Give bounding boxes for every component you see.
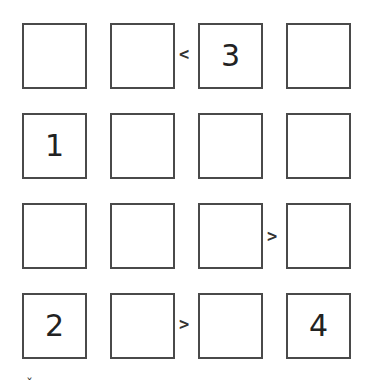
cell-r3-c1[interactable] [110, 293, 175, 359]
cell-r1-c0[interactable]: 1 [22, 113, 87, 179]
greater-than-sign: > [179, 316, 189, 333]
cell-value: 3 [221, 41, 240, 71]
cell-r0-c2[interactable]: 3 [198, 23, 263, 89]
cell-r3-c3[interactable]: 4 [286, 293, 351, 359]
cell-r3-c0[interactable]: 2 [22, 293, 87, 359]
cell-value: 4 [309, 311, 328, 341]
cell-r2-c1[interactable] [110, 203, 175, 269]
cell-r2-c0[interactable] [22, 203, 87, 269]
cell-r0-c0[interactable] [22, 23, 87, 89]
cell-r0-c3[interactable] [286, 23, 351, 89]
cell-r3-c2[interactable] [198, 293, 263, 359]
greater-than-sign: > [267, 228, 277, 245]
cell-r1-c2[interactable] [198, 113, 263, 179]
less-than-sign: < [179, 46, 189, 63]
cell-value: 2 [45, 311, 64, 341]
cell-r1-c3[interactable] [286, 113, 351, 179]
partial-glyph: ˇ [26, 376, 33, 386]
cell-r2-c2[interactable] [198, 203, 263, 269]
cell-r0-c1[interactable] [110, 23, 175, 89]
cell-r1-c1[interactable] [110, 113, 175, 179]
cell-r2-c3[interactable] [286, 203, 351, 269]
cell-value: 1 [45, 131, 64, 161]
